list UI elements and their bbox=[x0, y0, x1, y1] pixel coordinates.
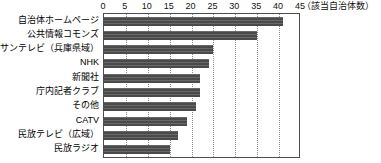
bar bbox=[104, 131, 178, 140]
bar-row bbox=[104, 72, 301, 87]
bar-row bbox=[104, 15, 301, 30]
bar-row bbox=[104, 100, 301, 115]
category-label: 自治体ホームページ bbox=[18, 15, 99, 26]
bar bbox=[104, 59, 209, 68]
category-label: その他 bbox=[72, 100, 99, 111]
axis-unit-note: （該当自治体数） bbox=[302, 1, 374, 12]
bar-row bbox=[104, 129, 301, 144]
category-label: 公共情報コモンズ bbox=[27, 29, 99, 40]
x-tick-label-10: 10 bbox=[136, 1, 158, 12]
x-tick-label-35: 35 bbox=[245, 1, 267, 12]
bar-row bbox=[104, 86, 301, 101]
bar-row bbox=[104, 29, 301, 44]
plot-area bbox=[103, 13, 300, 158]
x-tick-label-15: 15 bbox=[158, 1, 180, 12]
category-label: CATV bbox=[76, 115, 99, 126]
category-axis-labels: 自治体ホームページ公共情報コモンズサンテレビ（兵庫県域）NHK新聞社庁内記者クラ… bbox=[0, 13, 101, 158]
bar-row bbox=[104, 43, 301, 58]
bar-row bbox=[104, 143, 301, 158]
bar bbox=[104, 88, 200, 97]
x-tick-label-30: 30 bbox=[223, 1, 245, 12]
bar bbox=[104, 102, 196, 111]
category-label: NHK bbox=[80, 57, 99, 68]
bar bbox=[104, 145, 170, 154]
bar-row bbox=[104, 57, 301, 72]
bar bbox=[104, 74, 200, 83]
x-tick-label-0: 0 bbox=[92, 1, 114, 12]
category-label: 民放ラジオ bbox=[54, 143, 99, 154]
bar bbox=[104, 31, 257, 40]
x-tick-label-40: 40 bbox=[267, 1, 289, 12]
category-label: サンテレビ（兵庫県域） bbox=[0, 43, 99, 54]
bar-series bbox=[104, 14, 299, 157]
bar bbox=[104, 117, 187, 126]
horizontal-bar-chart: 051015202530354045（該当自治体数） 自治体ホームページ公共情報… bbox=[0, 0, 381, 163]
x-tick-label-20: 20 bbox=[180, 1, 202, 12]
x-tick-label-5: 5 bbox=[114, 1, 136, 12]
category-label: 新聞社 bbox=[72, 72, 99, 83]
x-tick-label-25: 25 bbox=[201, 1, 223, 12]
category-label: 庁内記者クラブ bbox=[36, 86, 99, 97]
x-axis-tick-labels: 051015202530354045（該当自治体数） bbox=[0, 0, 381, 14]
bar-row bbox=[104, 115, 301, 130]
bar bbox=[104, 45, 213, 54]
category-label: 民放テレビ（広域） bbox=[18, 129, 99, 140]
bar bbox=[104, 17, 283, 26]
